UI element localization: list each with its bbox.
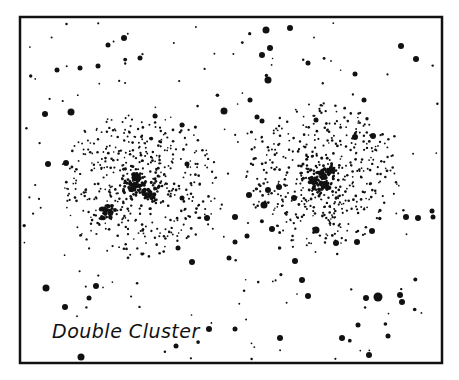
cluster-star xyxy=(123,139,125,141)
cluster-star xyxy=(129,254,131,256)
cluster-star xyxy=(362,140,364,142)
cluster-star xyxy=(87,148,89,150)
field-star xyxy=(123,58,127,62)
cluster-star xyxy=(121,177,123,179)
cluster-star xyxy=(293,222,295,224)
cluster-star xyxy=(335,143,337,145)
field-star xyxy=(431,64,433,66)
cluster-star xyxy=(214,177,216,179)
cluster-star xyxy=(172,129,175,132)
field-star xyxy=(164,350,167,353)
bright-star xyxy=(78,66,83,71)
cluster-star xyxy=(357,122,359,124)
cluster-star xyxy=(196,166,198,168)
cluster-star xyxy=(110,186,112,188)
cluster-star xyxy=(377,145,379,147)
cluster-star xyxy=(136,247,138,249)
cluster-star xyxy=(177,219,179,221)
cluster-star xyxy=(154,180,157,183)
cluster-star xyxy=(347,199,350,202)
cluster-star xyxy=(288,166,291,169)
cluster-star xyxy=(325,154,327,156)
cluster-star xyxy=(358,168,360,170)
cluster-star xyxy=(66,200,68,202)
cluster-star xyxy=(129,213,131,215)
cluster-star xyxy=(267,201,270,204)
cluster-star xyxy=(109,145,111,147)
cluster-star xyxy=(93,198,95,200)
cluster-star xyxy=(157,186,160,189)
cluster-star xyxy=(337,179,340,182)
cluster-star xyxy=(127,219,129,221)
cluster-star xyxy=(122,188,125,191)
cluster-star xyxy=(335,197,338,200)
cluster-star xyxy=(337,230,339,232)
cluster-star xyxy=(124,181,127,184)
cluster-star xyxy=(132,155,134,157)
cluster-star xyxy=(176,235,178,237)
field-star xyxy=(62,100,64,102)
cluster-star xyxy=(130,165,132,167)
bright-star xyxy=(398,43,404,49)
field-star xyxy=(124,82,126,84)
cluster-star xyxy=(342,212,344,214)
cluster-star xyxy=(269,159,271,161)
cluster-star xyxy=(294,228,296,230)
cluster-star xyxy=(319,234,321,236)
field-star xyxy=(363,135,365,137)
cluster-star xyxy=(100,188,102,190)
cluster-star xyxy=(117,224,120,227)
cluster-star xyxy=(124,129,126,131)
bright-star xyxy=(260,119,265,124)
cluster-star xyxy=(141,159,144,162)
cluster-star xyxy=(371,147,373,149)
cluster-star xyxy=(339,140,341,142)
cluster-star xyxy=(198,204,200,206)
cluster-star xyxy=(356,208,358,210)
cluster-star xyxy=(379,173,382,176)
cluster-star xyxy=(88,198,90,200)
cluster-star xyxy=(156,228,158,230)
cluster-star xyxy=(278,182,280,184)
bright-star xyxy=(287,25,293,31)
cluster-star xyxy=(164,166,166,168)
cluster-star xyxy=(391,166,394,169)
cluster-star xyxy=(114,200,116,202)
cluster-star xyxy=(162,250,165,253)
cluster-star xyxy=(93,214,95,216)
cluster-core-star xyxy=(148,189,151,192)
cluster-star xyxy=(162,200,165,203)
bright-star xyxy=(399,299,405,305)
bright-star xyxy=(291,195,297,201)
cluster-star xyxy=(127,228,129,230)
field-star xyxy=(308,134,310,136)
cluster-star xyxy=(369,169,372,172)
cluster-star xyxy=(338,194,341,197)
cluster-star xyxy=(384,176,387,179)
cluster-star xyxy=(286,120,288,122)
field-star xyxy=(286,302,288,304)
cluster-star xyxy=(303,197,305,199)
field-star xyxy=(253,346,255,348)
field-star xyxy=(97,274,99,276)
cluster-star xyxy=(305,154,307,156)
cluster-star xyxy=(165,228,167,230)
cluster-star xyxy=(116,136,119,139)
cluster-star xyxy=(184,172,186,174)
cluster-star xyxy=(106,200,108,202)
field-star xyxy=(359,350,361,352)
field-star xyxy=(340,69,342,71)
field-star xyxy=(23,224,26,227)
cluster-star xyxy=(158,252,161,255)
cluster-star xyxy=(71,166,74,169)
cluster-star xyxy=(331,190,334,193)
cluster-star xyxy=(307,156,309,158)
cluster-star xyxy=(75,199,78,202)
cluster-star xyxy=(339,186,341,188)
cluster-star xyxy=(167,235,169,237)
cluster-star xyxy=(316,130,319,133)
cluster-star xyxy=(71,150,74,153)
field-star xyxy=(34,184,36,186)
cluster-star xyxy=(288,140,290,142)
cluster-star xyxy=(277,203,279,205)
